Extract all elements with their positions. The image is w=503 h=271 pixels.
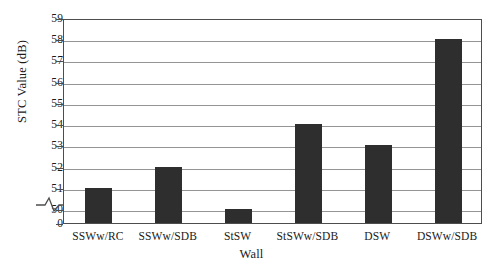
x-tick-label: SSWw/SDB: [139, 230, 197, 242]
x-tick-label: StSW: [224, 230, 251, 242]
bar-chart: STC Value (dB) 050515253545556575859 SSW…: [0, 0, 503, 271]
y-tick-mark: [56, 83, 63, 84]
x-tick-label: DSWw/SDB: [417, 230, 477, 242]
bar: [225, 209, 252, 223]
bar: [155, 167, 182, 223]
gridline: [64, 169, 481, 170]
gridline: [64, 126, 481, 127]
bar: [295, 124, 322, 223]
bar: [365, 145, 392, 223]
y-axis: STC Value (dB) 050515253545556575859: [0, 0, 63, 271]
gridline: [64, 41, 481, 42]
y-tick-mark: [56, 125, 63, 126]
y-tick-mark: [56, 189, 63, 190]
y-tick-mark: [56, 146, 63, 147]
gridline: [64, 211, 481, 212]
y-tick-mark: [56, 104, 63, 105]
plot-area: [63, 19, 482, 224]
y-tick-mark: [56, 168, 63, 169]
gridline: [64, 190, 481, 191]
y-tick-mark: [56, 61, 63, 62]
y-tick-mark: [56, 19, 63, 20]
bar: [85, 188, 112, 223]
x-tick-label: SSWw/RC: [72, 230, 123, 242]
y-tick-mark: [56, 40, 63, 41]
gridline: [64, 84, 481, 85]
gridline: [64, 105, 481, 106]
x-tick-label: DSW: [364, 230, 390, 242]
bar: [435, 39, 462, 223]
x-tick-label: StSWw/SDB: [277, 230, 339, 242]
x-axis-title: Wall: [0, 247, 503, 262]
gridline: [64, 62, 481, 63]
gridline: [64, 147, 481, 148]
y-tick-mark: [56, 224, 63, 225]
